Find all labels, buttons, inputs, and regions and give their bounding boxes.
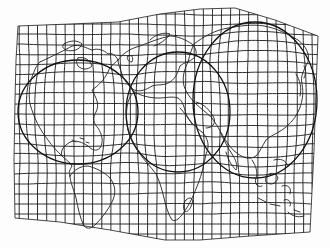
meridian-line bbox=[44, 4, 47, 244]
meridian-line bbox=[267, 5, 268, 244]
meridian-line bbox=[54, 4, 56, 244]
meridian-line bbox=[210, 5, 213, 244]
meridian-line bbox=[193, 4, 195, 244]
parallel-line bbox=[10, 4, 322, 5]
parallel-line bbox=[11, 92, 322, 94]
british-isles bbox=[127, 55, 133, 62]
meridian-line bbox=[257, 5, 258, 244]
meridian-line bbox=[303, 5, 306, 244]
parallel-line bbox=[11, 103, 322, 104]
parallel-line bbox=[11, 124, 322, 127]
parallel-line bbox=[10, 40, 321, 45]
meridian-line bbox=[10, 4, 11, 244]
meridian-line bbox=[83, 4, 84, 244]
parallel-line bbox=[10, 31, 321, 36]
meridian-line bbox=[247, 5, 249, 244]
parallel-line bbox=[11, 143, 321, 147]
north-america-lens bbox=[18, 60, 138, 164]
meridian-line bbox=[203, 5, 205, 244]
parallel-line bbox=[11, 153, 321, 158]
meridian-line bbox=[285, 5, 288, 244]
meridian-line bbox=[129, 4, 130, 244]
meridian-line bbox=[64, 4, 65, 244]
meridian-line bbox=[111, 4, 115, 244]
meridian-line bbox=[145, 4, 149, 244]
meridian-line bbox=[321, 4, 322, 244]
map-canvas bbox=[0, 0, 330, 248]
parallel-line bbox=[11, 114, 322, 115]
world-map bbox=[0, 0, 330, 248]
europe-africa-lens bbox=[126, 52, 230, 172]
meridian-line bbox=[120, 4, 124, 244]
meridian-line bbox=[101, 4, 104, 244]
meridian-line bbox=[92, 4, 93, 244]
red-sea-coast bbox=[180, 108, 192, 124]
meridian-line bbox=[218, 5, 221, 244]
graticule-grid bbox=[10, 4, 322, 244]
